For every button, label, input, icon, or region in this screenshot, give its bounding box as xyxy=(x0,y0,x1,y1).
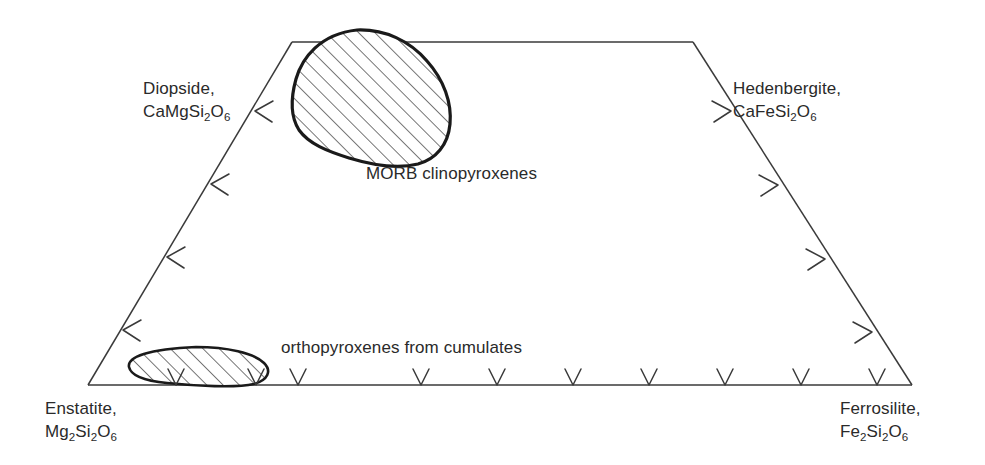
field-caption-orthopyroxenes: orthopyroxenes from cumulates xyxy=(281,338,522,358)
field-caption-morb-clinopyroxenes: MORB clinopyroxenes xyxy=(366,164,537,184)
tick-right-3 xyxy=(806,249,825,270)
field-morb-clinopyroxenes xyxy=(285,22,465,177)
tick-left-1 xyxy=(255,101,273,122)
tick-right-2 xyxy=(759,175,778,196)
tick-bottom-4 xyxy=(489,369,505,385)
vertex-label-ferrosilite-formula: Fe2Si2O6 xyxy=(840,420,921,443)
left-axis-ticks xyxy=(123,101,273,341)
vertex-label-enstatite-formula: Mg2Si2O6 xyxy=(45,420,117,443)
quadrilateral-diagram xyxy=(0,0,985,465)
pyroxene-quadrilateral-figure: Diopside, CaMgSi2O6 Hedenbergite, CaFeSi… xyxy=(0,0,985,465)
vertex-label-ferrosilite: Ferrosilite, Fe2Si2O6 xyxy=(840,397,921,444)
right-axis-ticks xyxy=(712,101,872,343)
vertex-label-hedenbergite-name: Hedenbergite, xyxy=(733,79,841,98)
tick-bottom-8 xyxy=(793,369,809,385)
tick-bottom-6 xyxy=(641,369,657,385)
vertex-label-ferrosilite-name: Ferrosilite, xyxy=(840,399,921,418)
tick-right-1 xyxy=(712,101,731,122)
vertex-label-diopside-formula: CaMgSi2O6 xyxy=(143,100,230,123)
tick-left-4 xyxy=(123,320,141,341)
field-orthopyroxenes-from-cumulates xyxy=(122,340,274,392)
tick-bottom-2 xyxy=(290,369,306,385)
tick-left-3 xyxy=(167,247,185,268)
vertex-label-enstatite: Enstatite, Mg2Si2O6 xyxy=(45,397,117,444)
tick-bottom-7 xyxy=(717,369,733,385)
tick-right-4 xyxy=(853,322,872,343)
vertex-label-enstatite-name: Enstatite, xyxy=(45,399,117,418)
vertex-label-diopside: Diopside, CaMgSi2O6 xyxy=(143,77,230,124)
tick-bottom-3 xyxy=(413,369,429,385)
vertex-label-hedenbergite-formula: CaFeSi2O6 xyxy=(733,100,841,123)
tick-bottom-9 xyxy=(869,369,885,385)
tick-bottom-5 xyxy=(565,369,581,385)
tick-left-2 xyxy=(211,174,229,195)
bottom-axis-ticks xyxy=(168,369,885,385)
vertex-label-hedenbergite: Hedenbergite, CaFeSi2O6 xyxy=(733,77,841,124)
vertex-label-diopside-name: Diopside, xyxy=(143,79,215,98)
